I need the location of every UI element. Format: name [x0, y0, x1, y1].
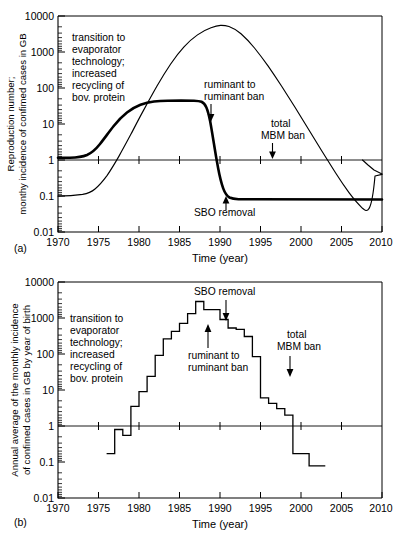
- panel-b-x-axis-title: Time (year): [192, 518, 248, 530]
- panel-b-y-axis-title-line2: of confimed cases in GB by year of birth: [21, 305, 32, 475]
- x-tick-label: 1995: [249, 502, 273, 514]
- y-tick-label: 10: [42, 384, 54, 396]
- panel-a-x-ticks: [58, 226, 382, 232]
- panel-b-y-axis-title-line1: Annual average of the monthly incidence: [9, 303, 20, 476]
- panel-a: transition to evaporator technology; inc…: [0, 0, 397, 268]
- x-tick-label: 2010: [369, 502, 393, 514]
- reproduction-number-curve: [58, 101, 382, 200]
- annot-line: bov. protein: [72, 92, 125, 103]
- y-tick-label: 0.1: [39, 456, 54, 468]
- arrow-up-icon: [205, 324, 212, 332]
- bse-epidemic-figure: transition to evaporator technology; inc…: [0, 0, 397, 535]
- annual-average-step-curve: [107, 302, 326, 466]
- annot-line: ruminant ban: [188, 362, 248, 373]
- annotation-transition-note-b: transition to evaporator technology; inc…: [70, 313, 124, 384]
- annotation-total-mbm-ban: total MBM ban: [261, 118, 305, 159]
- annot-line: technology;: [70, 337, 123, 348]
- annotation-ruminant-ban: ruminant to ruminant ban: [204, 79, 264, 122]
- y-tick-label: 10000: [25, 276, 54, 288]
- annot-line: recycling of: [70, 361, 122, 372]
- arrow-down-icon: [287, 369, 294, 377]
- y-tick-label: 1: [48, 420, 54, 432]
- x-tick-label: 1975: [87, 502, 111, 514]
- annot-line: SBO removal: [194, 207, 255, 218]
- annotation-total-mbm-ban-b: total MBM ban: [277, 329, 321, 377]
- panel-b-x-tick-labels: 1970 1975 1980 1985 1990 1995 2000 2005 …: [46, 502, 393, 514]
- panel-a-unity-line: [58, 156, 382, 164]
- y-tick-label: 1000: [31, 312, 55, 324]
- x-tick-label: 1990: [208, 236, 232, 248]
- panel-b-plot: transition to evaporator technology; inc…: [0, 268, 397, 535]
- annot-line: total: [271, 118, 290, 129]
- x-tick-label: 2010: [369, 236, 393, 248]
- annot-line: bov. protein: [70, 373, 123, 384]
- panel-a-y-axis-title-line2: monthy incidence of confimed cases in GB: [17, 33, 28, 214]
- panel-a-plot: transition to evaporator technology; inc…: [0, 0, 397, 268]
- x-tick-label: 1985: [168, 236, 192, 248]
- incidence-curve-tail: [363, 160, 383, 174]
- annot-line: technology;: [72, 56, 125, 67]
- x-tick-label: 1995: [249, 236, 273, 248]
- panel-a-x-axis-title: Time (year): [192, 252, 248, 264]
- panel-a-letter: (a): [14, 242, 27, 254]
- x-tick-label: 1970: [46, 236, 70, 248]
- annot-line: total: [287, 329, 306, 340]
- y-tick-label: 1: [48, 154, 54, 166]
- annot-line: ruminant to: [204, 79, 256, 90]
- panel-a-y-ticks: [58, 16, 65, 232]
- x-tick-label: 2000: [289, 236, 313, 248]
- annot-line: transition to: [70, 313, 124, 324]
- x-tick-label: 2005: [330, 236, 354, 248]
- annot-line: increased: [72, 68, 117, 79]
- y-tick-label: 1000: [31, 46, 55, 58]
- annot-line: MBM ban: [277, 341, 321, 352]
- y-tick-label: 10000: [25, 10, 54, 22]
- y-tick-label: 100: [36, 348, 54, 360]
- annot-line: transition to: [72, 32, 126, 43]
- annot-line: ruminant ban: [204, 91, 264, 102]
- x-tick-label: 1980: [127, 502, 151, 514]
- x-tick-label: 1970: [46, 502, 70, 514]
- annot-line: ruminant to: [188, 350, 240, 361]
- annot-line: MBM ban: [261, 130, 305, 141]
- annot-line: SBO removal: [194, 286, 255, 297]
- annotation-transition-note: transition to evaporator technology; inc…: [72, 32, 126, 103]
- annot-line: recycling of: [72, 80, 124, 91]
- annot-line: evaporator: [72, 44, 122, 55]
- arrow-down-icon: [269, 152, 276, 160]
- panel-b-unity-line: [58, 422, 382, 430]
- panel-b: transition to evaporator technology; inc…: [0, 268, 397, 535]
- annot-line: increased: [70, 349, 115, 360]
- panel-a-y-axis-title-line1: Reproduction number;: [5, 77, 16, 172]
- panel-b-x-ticks: [58, 492, 382, 498]
- y-tick-label: 100: [36, 82, 54, 94]
- x-tick-label: 1990: [208, 502, 232, 514]
- x-tick-label: 2000: [289, 502, 313, 514]
- panel-a-y-tick-labels: 10000 1000 100 10 1 0.1 0.01: [25, 10, 54, 238]
- panel-b-y-ticks: [58, 282, 65, 498]
- x-tick-label: 2005: [330, 502, 354, 514]
- y-tick-label: 10: [42, 118, 54, 130]
- x-tick-label: 1980: [127, 236, 151, 248]
- y-tick-label: 0.1: [39, 190, 54, 202]
- annot-line: evaporator: [70, 325, 120, 336]
- x-tick-label: 1985: [168, 502, 192, 514]
- x-tick-label: 1975: [87, 236, 111, 248]
- panel-b-letter: (b): [14, 516, 27, 528]
- panel-a-x-tick-labels: 1970 1975 1980 1985 1990 1995 2000 2005 …: [46, 236, 393, 248]
- annotation-ruminant-ban-b: ruminant to ruminant ban: [188, 324, 248, 373]
